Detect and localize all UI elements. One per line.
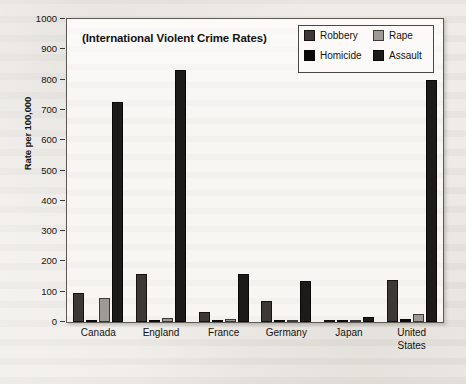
y-axis-tick-mark bbox=[60, 291, 65, 292]
x-axis-label-canada: Canada bbox=[67, 326, 130, 339]
legend-swatch-rape bbox=[373, 30, 384, 41]
x-axis-labels: CanadaEnglandFranceGermanyJapanUnitedSta… bbox=[67, 326, 443, 382]
bar-japan-assault bbox=[363, 317, 374, 322]
y-axis-tick-mark bbox=[60, 79, 65, 80]
y-axis-tick-label: 500 bbox=[41, 165, 57, 177]
x-axis-label-line: Germany bbox=[266, 327, 307, 338]
bar-united-states-assault bbox=[426, 80, 437, 322]
x-axis-label-france: France bbox=[192, 326, 255, 339]
chart-legend: RobberyRapeHomicideAssault bbox=[298, 25, 434, 73]
y-axis-tick: 900 bbox=[0, 43, 66, 55]
bar-canada-rape bbox=[99, 298, 110, 322]
legend-label-rape: Rape bbox=[389, 30, 413, 41]
x-axis-label-united-states: UnitedStates bbox=[380, 326, 443, 352]
y-axis-tick-mark bbox=[60, 230, 65, 231]
bar-japan-homicide bbox=[337, 320, 348, 322]
y-axis-tick-label: 1000 bbox=[36, 13, 57, 25]
y-axis-tick: 800 bbox=[0, 74, 66, 86]
bar-united-states-rape bbox=[413, 314, 424, 322]
bar-group bbox=[130, 19, 193, 322]
y-axis-tick-mark bbox=[60, 260, 65, 261]
y-axis-tick-label: 200 bbox=[41, 255, 57, 267]
bar-group bbox=[67, 19, 130, 322]
chart-title: (International Violent Crime Rates) bbox=[82, 32, 267, 44]
bar-england-robbery bbox=[136, 274, 147, 322]
x-axis-label-line: France bbox=[208, 327, 239, 338]
y-axis-tick-mark bbox=[60, 18, 65, 19]
legend-label-robbery: Robbery bbox=[320, 30, 358, 41]
y-axis-tick: 600 bbox=[0, 134, 66, 146]
y-axis-tick-label: 400 bbox=[41, 195, 57, 207]
x-axis-label-line: States bbox=[380, 339, 443, 352]
bar-france-assault bbox=[238, 274, 249, 322]
x-axis-label-england: England bbox=[130, 326, 193, 339]
bar-england-assault bbox=[175, 70, 186, 322]
y-axis-tick: 300 bbox=[0, 225, 66, 237]
y-axis-tick-mark bbox=[60, 170, 65, 171]
x-axis-label-line: England bbox=[143, 327, 180, 338]
y-axis-tick: 1000 bbox=[0, 13, 66, 25]
legend-swatch-robbery bbox=[304, 30, 315, 41]
y-axis-ticks: 10009008007006005004003002001000 bbox=[0, 0, 66, 384]
y-axis-tick-mark bbox=[60, 321, 65, 322]
bar-japan-robbery bbox=[324, 320, 335, 322]
bar-canada-assault bbox=[112, 102, 123, 322]
legend-swatch-homicide bbox=[304, 50, 315, 61]
bar-canada-robbery bbox=[73, 293, 84, 322]
x-axis-label-line: United bbox=[397, 327, 426, 338]
legend-label-assault: Assault bbox=[389, 50, 422, 61]
bar-france-rape bbox=[225, 319, 236, 322]
y-axis-tick-label: 800 bbox=[41, 74, 57, 86]
bar-japan-rape bbox=[350, 320, 361, 322]
y-axis-tick-label: 900 bbox=[41, 43, 57, 55]
bar-england-homicide bbox=[149, 320, 160, 322]
bar-united-states-homicide bbox=[400, 319, 411, 322]
y-axis-tick: 400 bbox=[0, 195, 66, 207]
x-axis-label-japan: Japan bbox=[318, 326, 381, 339]
y-axis-tick: 500 bbox=[0, 165, 66, 177]
y-axis-tick: 0 bbox=[0, 316, 66, 328]
y-axis-tick-label: 0 bbox=[52, 316, 57, 328]
bar-france-homicide bbox=[212, 320, 223, 322]
y-axis-tick: 700 bbox=[0, 104, 66, 116]
legend-item-rape: Rape bbox=[373, 30, 413, 41]
legend-item-robbery: Robbery bbox=[304, 30, 358, 41]
bar-france-robbery bbox=[199, 312, 210, 322]
bar-germany-assault bbox=[300, 281, 311, 322]
bar-canada-homicide bbox=[86, 320, 97, 322]
y-axis-tick-mark bbox=[60, 200, 65, 201]
y-axis-tick-label: 100 bbox=[41, 286, 57, 298]
y-axis-title: Rate per 100,000 bbox=[22, 74, 33, 194]
y-axis-tick-mark bbox=[60, 109, 65, 110]
bar-germany-homicide bbox=[274, 320, 285, 322]
bar-group bbox=[192, 19, 255, 322]
y-axis-tick-label: 700 bbox=[41, 104, 57, 116]
y-axis-tick-mark bbox=[60, 139, 65, 140]
legend-label-homicide: Homicide bbox=[320, 50, 362, 61]
bar-germany-rape bbox=[287, 320, 298, 322]
y-axis-tick-label: 300 bbox=[41, 225, 57, 237]
bar-germany-robbery bbox=[261, 301, 272, 322]
bar-chart-figure: Rate per 100,000 10009008007006005004003… bbox=[0, 0, 466, 384]
x-axis-label-germany: Germany bbox=[255, 326, 318, 339]
legend-item-homicide: Homicide bbox=[304, 50, 362, 61]
bar-england-rape bbox=[162, 318, 173, 322]
bar-united-states-robbery bbox=[387, 280, 398, 322]
legend-swatch-assault bbox=[373, 50, 384, 61]
x-axis-label-line: Japan bbox=[335, 327, 362, 338]
y-axis-tick-mark bbox=[60, 48, 65, 49]
y-axis-tick-label: 600 bbox=[41, 134, 57, 146]
y-axis-tick: 100 bbox=[0, 286, 66, 298]
legend-item-assault: Assault bbox=[373, 50, 422, 61]
x-axis-label-line: Canada bbox=[81, 327, 116, 338]
y-axis-tick: 200 bbox=[0, 255, 66, 267]
